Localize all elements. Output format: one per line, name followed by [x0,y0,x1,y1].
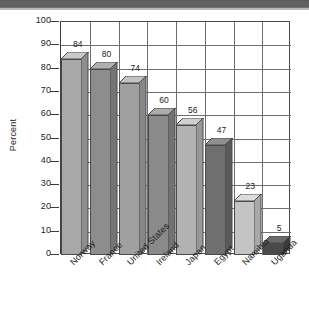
y-axis-title: Percent [8,100,18,170]
bar [90,62,118,255]
bar-front-face [176,125,197,255]
bar-value-label: 80 [96,50,118,59]
plot-area [60,21,290,254]
bar [176,118,204,255]
y-axis-tick-mark [50,254,59,255]
bar-front-face [119,83,140,255]
y-axis-tick-label: 30 [25,179,51,188]
y-axis-tick-mark [50,91,59,92]
bar-side-face [196,118,204,255]
bar-front-face [205,145,226,255]
y-axis-tick-label: 80 [25,63,51,72]
bar-value-label: 47 [211,126,233,135]
bar-value-label: 5 [268,224,290,233]
bar-value-label: 84 [67,40,89,49]
y-axis-tick-mark [50,184,59,185]
bar-side-face [225,138,233,255]
y-axis-tick-mark [50,21,59,22]
bar [61,52,89,255]
bar [205,138,233,255]
bar-value-label: 74 [124,64,146,73]
y-axis-tick-mark [50,207,59,208]
y-axis-tick-mark [50,68,59,69]
y-axis-tick-mark [50,114,59,115]
y-axis-tick-label: 70 [25,86,51,95]
y-axis-tick-label: 60 [25,109,51,118]
y-axis-tick-mark [50,161,59,162]
bar-side-face [81,52,89,255]
y-axis-tick-mark [50,44,59,45]
y-axis-tick-label: 20 [25,202,51,211]
y-axis-tick-label: 90 [25,39,51,48]
bar-value-label: 60 [153,96,175,105]
y-axis-tick-mark [50,138,59,139]
y-axis-tick-label: 10 [25,226,51,235]
bar-front-face [90,69,111,255]
bar-side-face [110,62,118,255]
scan-artifact-edge [0,8,309,10]
vertical-gridline [262,22,263,255]
bar [119,76,147,255]
bar-front-face [61,59,82,255]
bar-chart-figure: Percent 1009080706050403020100 848074605… [0,0,309,335]
bar-side-face [139,76,147,255]
y-axis-tick-label: 50 [25,133,51,142]
y-axis-tick-label: 100 [25,16,51,25]
y-axis-tick-mark [50,231,59,232]
bar-value-label: 23 [239,182,261,191]
y-axis-tick-label: 40 [25,156,51,165]
bar-value-label: 56 [182,106,204,115]
y-axis-tick-label: 0 [25,249,51,258]
bar-side-face [168,108,176,255]
